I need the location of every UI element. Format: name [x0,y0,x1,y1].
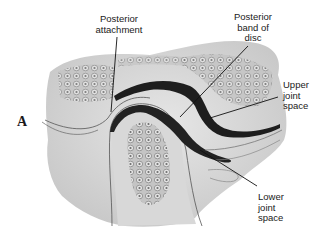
tmj-diagram: A Posterior attachment Posterior band of… [0,0,330,243]
panel-label: A [17,114,27,130]
label-upper-joint-space: Upper joint space [283,80,309,112]
label-line: disc [228,33,278,44]
label-line: Posterior [89,14,149,25]
label-posterior-attachment: Posterior attachment [89,14,149,35]
label-posterior-band-of-disc: Posterior band of disc [228,12,278,44]
label-line: Upper [283,80,309,91]
label-line: attachment [89,25,149,36]
label-line: space [283,101,309,112]
label-line: space [258,213,284,224]
label-line: Posterior [228,12,278,23]
label-lower-joint-space: Lower joint space [258,192,284,224]
label-line: Lower [258,192,284,203]
temporal-bone-left [58,65,115,102]
